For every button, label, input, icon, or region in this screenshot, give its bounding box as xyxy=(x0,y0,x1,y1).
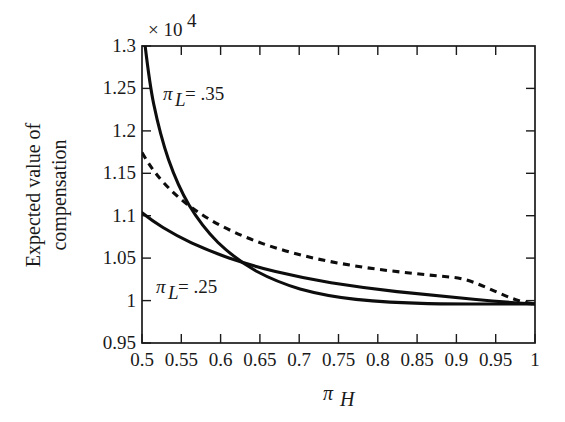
expected-compensation-line-chart: × 10 4 xyxy=(0,0,565,422)
annotation-pi-glyph: π xyxy=(163,83,173,104)
x-tick-label: 0.9 xyxy=(445,349,469,370)
annotation-pi-subscript: L xyxy=(167,282,179,303)
y-tick-label: 1.15 xyxy=(103,162,136,183)
x-tick-label: 0.85 xyxy=(400,349,433,370)
annotation-pi-subscript: L xyxy=(174,89,186,110)
x-axis-title-pi: π xyxy=(323,382,334,404)
figure-canvas: × 10 4 xyxy=(0,0,565,422)
x-tick-label: 0.6 xyxy=(209,349,233,370)
y-tick-label: 1.25 xyxy=(103,77,136,98)
x-axis-tick-labels: 0.5 0.55 0.6 0.65 0.7 0.75 0.8 0.85 0.9 … xyxy=(130,349,540,370)
y-tick-label: 1 xyxy=(127,290,137,311)
x-tick-label: 0.55 xyxy=(165,349,198,370)
x-tick-label: 1 xyxy=(530,349,540,370)
x-tick-label: 0.95 xyxy=(479,349,512,370)
x-tick-label: 0.8 xyxy=(366,349,390,370)
y-tick-label: 1.05 xyxy=(103,247,136,268)
y-tick-label: 1.3 xyxy=(112,35,136,56)
y-axis-title-line2: compensation xyxy=(48,139,71,250)
y-tick-label: 1.2 xyxy=(112,120,136,141)
x-axis-title-subscript: H xyxy=(339,388,356,410)
x-tick-label: 0.65 xyxy=(243,349,276,370)
y-tick-label: 1.1 xyxy=(112,205,136,226)
y-axis-title-line1: Expected value of xyxy=(22,122,45,267)
x-tick-label: 0.7 xyxy=(287,349,311,370)
y-axis-multiplier-base: × 10 xyxy=(148,19,182,40)
annotation-pi-l-025-value: = .25 xyxy=(178,276,217,297)
x-tick-label: 0.75 xyxy=(322,349,355,370)
x-tick-label: 0.5 xyxy=(130,349,154,370)
annotation-pi-glyph: π xyxy=(156,276,166,297)
annotation-pi-l-035-value: = .35 xyxy=(185,83,224,104)
y-axis-multiplier-exponent: 4 xyxy=(187,10,197,31)
